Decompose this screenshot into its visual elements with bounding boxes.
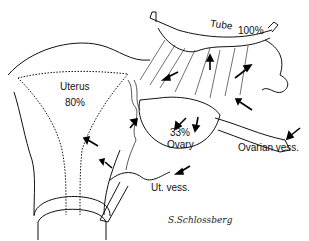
uterus-outline — [8, 43, 150, 75]
label-ovarian-vessels: Ovarian vess. — [238, 143, 299, 153]
uterine-vessels — [110, 172, 170, 180]
artist-signature: S.Schlossberg — [168, 215, 232, 225]
label-ovary: Ovary — [167, 140, 194, 150]
flow-arrows — [84, 55, 300, 174]
cervix — [34, 197, 110, 217]
label-ovary-percent: 33% — [170, 128, 190, 138]
label-uterine-vessels: Ut. vess. — [151, 183, 190, 193]
label-tube-percent: 100% — [238, 26, 264, 36]
label-uterus-percent: 80% — [65, 98, 85, 108]
anatomical-illustration — [0, 0, 309, 241]
label-uterus: Uterus — [60, 82, 89, 92]
